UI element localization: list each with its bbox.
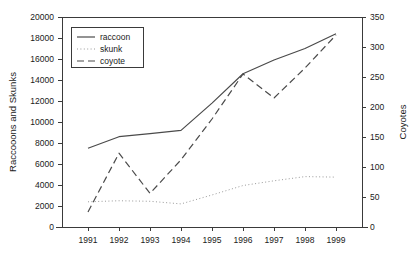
y2-axis-title: Coyotes: [397, 104, 408, 139]
right-tick-label: 150: [370, 132, 384, 142]
x-tick-label: 1997: [265, 235, 284, 245]
left-tick-label: 0: [49, 222, 54, 232]
right-tick-label: 0: [370, 222, 375, 232]
x-tick-label: 1993: [141, 235, 160, 245]
x-tick-label: 1995: [203, 235, 222, 245]
x-tick-label: 1992: [110, 235, 129, 245]
left-tick-label: 10000: [30, 117, 54, 127]
y-axis-title: Raccooons and Skunks: [7, 72, 18, 172]
series-line-coyote: [88, 35, 336, 212]
right-tick-label: 250: [370, 72, 384, 82]
left-tick-label: 18000: [30, 33, 54, 43]
right-tick-label: 100: [370, 162, 384, 172]
legend-label-raccoon: raccoon: [100, 32, 131, 42]
series-line-skunk: [88, 177, 336, 204]
legend-label-skunk: skunk: [100, 44, 123, 54]
x-tick-label: 1999: [327, 235, 346, 245]
x-tick-label: 1991: [79, 235, 98, 245]
series-line-raccoon: [88, 34, 336, 148]
left-tick-label: 12000: [30, 96, 54, 106]
right-tick-label: 50: [370, 192, 380, 202]
x-tick-label: 1998: [296, 235, 315, 245]
left-tick-label: 2000: [35, 201, 54, 211]
left-tick-label: 6000: [35, 159, 54, 169]
right-tick-label: 200: [370, 102, 384, 112]
left-tick-label: 20000: [30, 12, 54, 22]
left-tick-label: 8000: [35, 138, 54, 148]
left-tick-label: 4000: [35, 180, 54, 190]
right-tick-label: 350: [370, 12, 384, 22]
left-tick-label: 14000: [30, 75, 54, 85]
chart-canvas: 0200040006000800010000120001400016000180…: [0, 0, 417, 260]
x-tick-label: 1996: [234, 235, 253, 245]
legend-label-coyote: coyote: [100, 56, 125, 66]
right-tick-label: 300: [370, 42, 384, 52]
x-tick-label: 1994: [172, 235, 191, 245]
left-tick-label: 16000: [30, 54, 54, 64]
line-chart: 0200040006000800010000120001400016000180…: [0, 0, 417, 260]
